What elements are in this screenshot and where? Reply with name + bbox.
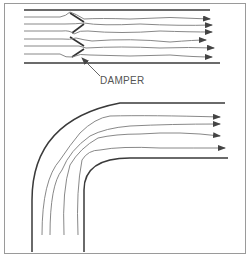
damper-pointer (82, 58, 100, 76)
elbow-streamlines (42, 116, 225, 235)
damper-blades (70, 13, 84, 57)
straight-duct-streamlines (24, 12, 214, 57)
airflow-diagram (0, 0, 252, 259)
damper-label: DAMPER (100, 75, 145, 86)
elbow-duct (32, 103, 228, 252)
